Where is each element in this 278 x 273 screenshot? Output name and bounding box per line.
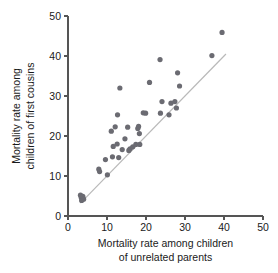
data-point bbox=[116, 155, 121, 160]
data-point bbox=[125, 125, 130, 130]
x-axis-title-line1: Mortality rate among children bbox=[98, 237, 234, 249]
x-tick-label: 30 bbox=[179, 221, 191, 233]
data-point bbox=[137, 131, 142, 136]
y-axis-title-line1: Mortality rate among bbox=[10, 68, 22, 164]
data-point bbox=[172, 99, 177, 104]
data-point bbox=[120, 147, 125, 152]
data-point bbox=[110, 154, 115, 159]
data-point bbox=[157, 57, 162, 62]
data-point bbox=[115, 141, 120, 146]
data-point bbox=[105, 172, 110, 177]
y-axis-ticks: 01020304050 bbox=[49, 10, 68, 222]
data-point bbox=[175, 70, 180, 75]
data-point bbox=[166, 112, 171, 117]
x-axis-title-line2: of unrelated parents bbox=[119, 251, 212, 263]
y-tick-label: 10 bbox=[49, 170, 61, 182]
reference-line-group bbox=[80, 54, 225, 203]
y-tick-label: 20 bbox=[49, 130, 61, 142]
data-point bbox=[158, 111, 163, 116]
scatter-plot-figure: 01020304050 01020304050 Mortality rate a… bbox=[0, 0, 278, 273]
axis-titles-group: Mortality rate among children of unrelat… bbox=[10, 63, 233, 263]
data-point bbox=[117, 85, 122, 90]
x-tick-label: 20 bbox=[140, 221, 152, 233]
x-tick-label: 40 bbox=[218, 221, 230, 233]
data-points-group bbox=[78, 30, 225, 203]
x-tick-label: 10 bbox=[101, 221, 113, 233]
data-point bbox=[103, 157, 108, 162]
data-point bbox=[109, 129, 114, 134]
data-point bbox=[209, 53, 214, 58]
y-tick-label: 50 bbox=[49, 10, 61, 22]
data-point bbox=[147, 80, 152, 85]
x-tick-label: 0 bbox=[65, 221, 71, 233]
x-axis-ticks: 01020304050 bbox=[65, 216, 269, 233]
data-point bbox=[143, 111, 148, 116]
data-point bbox=[177, 83, 182, 88]
data-point bbox=[97, 169, 102, 174]
data-point bbox=[113, 124, 118, 129]
data-point bbox=[122, 136, 127, 141]
x-tick-label: 50 bbox=[257, 221, 269, 233]
data-point bbox=[219, 30, 224, 35]
y-tick-label: 0 bbox=[55, 210, 61, 222]
data-point bbox=[174, 105, 179, 110]
y-axis-title-line2: children of first cousins bbox=[24, 63, 36, 170]
data-point bbox=[81, 197, 86, 202]
y-tick-label: 30 bbox=[49, 90, 61, 102]
data-point bbox=[159, 99, 164, 104]
identity-reference-line bbox=[80, 54, 225, 203]
chart-canvas: 01020304050 01020304050 Mortality rate a… bbox=[0, 0, 278, 273]
data-point bbox=[115, 112, 120, 117]
y-tick-label: 40 bbox=[49, 50, 61, 62]
data-point bbox=[136, 124, 141, 129]
data-point bbox=[137, 142, 142, 147]
